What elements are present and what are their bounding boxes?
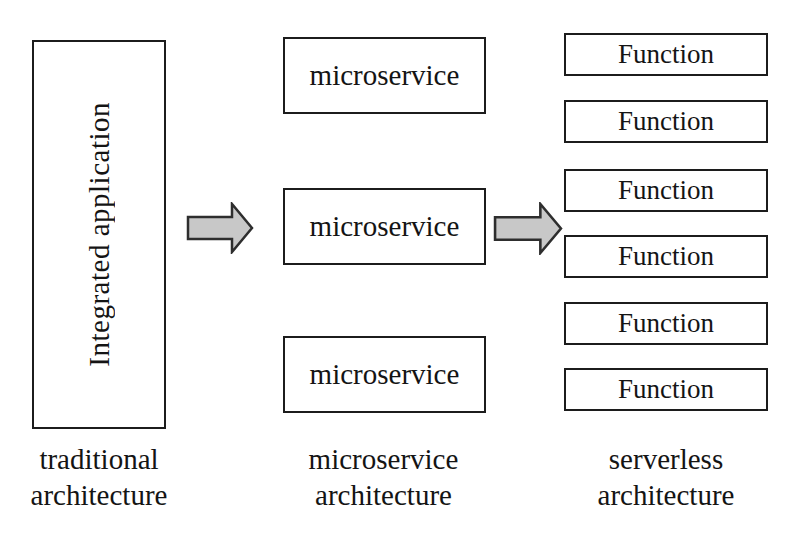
function-box-3: Function — [564, 169, 768, 212]
caption-line-2: architecture — [9, 477, 189, 513]
microservice-box-2-label: microservice — [310, 210, 460, 243]
function-box-6: Function — [564, 368, 768, 411]
function-box-2-label: Function — [618, 106, 714, 137]
microservice-box-1-label: microservice — [310, 59, 460, 92]
function-box-6-label: Function — [618, 374, 714, 405]
caption-line-1: serverless — [576, 441, 756, 477]
microservice-box-3: microservice — [283, 336, 486, 413]
right-arrow-icon — [186, 202, 254, 254]
function-box-1: Function — [564, 33, 768, 76]
integrated-application-label: Integrated application — [83, 102, 116, 367]
microservice-architecture-caption: microservice architecture — [293, 441, 474, 513]
microservice-box-1: microservice — [283, 37, 486, 114]
function-box-2: Function — [564, 100, 768, 143]
serverless-architecture-caption: serverless architecture — [576, 441, 756, 513]
caption-line-1: traditional — [9, 441, 189, 477]
function-box-5-label: Function — [618, 308, 714, 339]
caption-line-1: microservice — [293, 441, 474, 477]
function-box-1-label: Function — [618, 39, 714, 70]
caption-line-2: architecture — [576, 477, 756, 513]
architecture-evolution-diagram: Integrated application traditional archi… — [0, 0, 806, 540]
right-arrow-icon — [493, 202, 563, 255]
microservice-box-2: microservice — [283, 188, 486, 265]
microservice-box-3-label: microservice — [310, 358, 460, 391]
function-box-4: Function — [564, 235, 768, 278]
traditional-architecture-caption: traditional architecture — [9, 441, 189, 513]
caption-line-2: architecture — [293, 477, 474, 513]
function-box-3-label: Function — [618, 175, 714, 206]
function-box-4-label: Function — [618, 241, 714, 272]
function-box-5: Function — [564, 302, 768, 345]
integrated-application-box: Integrated application — [32, 40, 166, 429]
